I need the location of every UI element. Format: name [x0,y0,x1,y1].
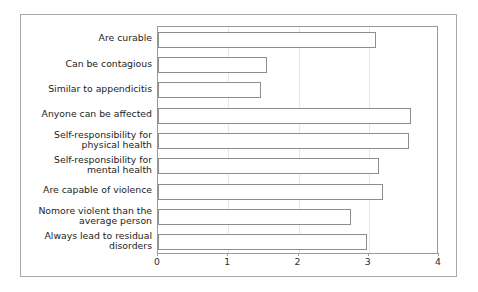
bar [158,133,409,149]
y-axis-label-line: Anyone can be affected [20,109,152,120]
y-axis-labels: Are curableCan be contagiousSimilar to a… [18,26,152,254]
y-axis-label: Self-responsibility forphysical health [20,130,152,151]
bar [158,158,379,174]
bar [158,57,267,73]
y-axis-label-line: Can be contagious [20,59,152,70]
x-tick-label: 0 [145,256,169,267]
y-axis-label: Can be contagious [20,59,152,70]
x-axis-ticks: 01234 [157,256,438,274]
y-axis-label-line: Are curable [20,33,152,44]
y-axis-label-line: mental health [20,165,152,176]
y-axis-label-line: average person [20,216,152,227]
y-axis-label: Nomore violent than theaverage person [20,206,152,227]
y-axis-label: Are capable of violence [20,185,152,196]
x-tick-label: 3 [356,256,380,267]
y-axis-label: Similar to appendicitis [20,84,152,95]
x-tick-label: 1 [215,256,239,267]
chart-figure: Are curableCan be contagiousSimilar to a… [0,0,478,292]
x-tick-label: 2 [286,256,310,267]
y-axis-label-line: physical health [20,140,152,151]
bar [158,234,367,250]
y-axis-label-line: disorders [20,241,152,252]
bar [158,108,411,124]
bar [158,209,351,225]
y-axis-label-line: Similar to appendicitis [20,84,152,95]
y-axis-label: Always lead to residualdisorders [20,231,152,252]
y-axis-label-line: Are capable of violence [20,185,152,196]
plot-area [157,26,438,254]
y-axis-label: Are curable [20,33,152,44]
bar [158,32,376,48]
y-axis-label: Self-responsibility formental health [20,155,152,176]
x-tick-label: 4 [426,256,450,267]
bar [158,82,261,98]
bar [158,184,383,200]
y-axis-label: Anyone can be affected [20,109,152,120]
